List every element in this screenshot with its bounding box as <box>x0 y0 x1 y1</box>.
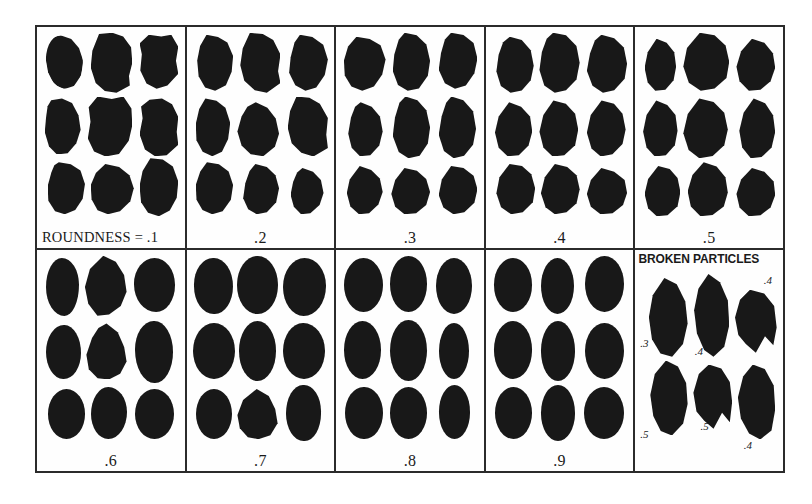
panel-label: .7 <box>187 452 335 470</box>
particle <box>439 33 478 89</box>
particle <box>239 321 276 381</box>
broken-particle-label: .5 <box>640 428 648 440</box>
panel-label: .2 <box>187 229 335 247</box>
particle <box>283 323 325 379</box>
particle <box>197 35 233 91</box>
particle <box>539 100 578 156</box>
particle <box>344 258 383 312</box>
particle <box>140 35 179 89</box>
particle <box>584 387 624 439</box>
particle <box>288 97 328 157</box>
particle <box>345 387 382 439</box>
particle <box>683 98 728 158</box>
particle <box>390 256 427 312</box>
panel-label: .8 <box>336 452 484 470</box>
panel-label: .5 <box>635 229 783 247</box>
particle <box>495 102 532 156</box>
particle <box>283 258 326 316</box>
particle <box>587 35 627 93</box>
particle-grid <box>189 252 333 445</box>
particle-grid <box>39 29 183 222</box>
particle <box>496 37 533 93</box>
particle <box>344 321 381 379</box>
particle <box>289 35 328 91</box>
particle <box>587 100 626 156</box>
panel-roundness-0-3[interactable]: .3 <box>336 27 486 248</box>
broken-particle <box>693 365 732 432</box>
particle <box>135 389 174 439</box>
panel-roundness-0-4[interactable]: .4 <box>486 27 636 248</box>
broken-particles-title: BROKEN PARTICLES <box>638 252 781 266</box>
particle <box>587 168 627 214</box>
particle <box>237 256 277 314</box>
broken-particle-grid: .3 .4 .4 .5 .5 .4 <box>637 270 781 467</box>
particle <box>390 387 427 439</box>
panel-roundness-0-7[interactable]: .7 <box>187 250 337 471</box>
particle <box>46 325 80 379</box>
panel-roundness-0-1[interactable]: ROUNDNESS = .1 <box>37 27 187 248</box>
broken-particle-label: .4 <box>764 274 772 286</box>
particle <box>736 39 775 91</box>
particle <box>286 385 320 441</box>
particle <box>243 164 279 214</box>
particle <box>688 162 728 216</box>
broken-particle <box>650 361 687 436</box>
particle <box>91 164 134 214</box>
panel-label: .3 <box>336 229 484 247</box>
panel-label: ROUNDNESS = .1 <box>37 229 185 246</box>
particle <box>45 98 81 154</box>
particle <box>541 321 575 381</box>
particle <box>291 168 324 214</box>
particle <box>541 258 574 314</box>
particle-grid <box>338 29 482 222</box>
particle <box>48 389 85 439</box>
particle-grid <box>338 252 482 445</box>
particle <box>46 258 79 316</box>
broken-particle-label: .3 <box>640 337 648 349</box>
panel-roundness-0-2[interactable]: .2 <box>187 27 337 248</box>
particle <box>683 33 729 91</box>
particle <box>348 102 382 156</box>
particle <box>736 168 775 216</box>
particle <box>495 387 532 439</box>
particle <box>439 97 476 159</box>
particle <box>585 323 624 379</box>
panel-roundness-0-8[interactable]: .8 <box>336 250 486 471</box>
particle <box>344 37 386 91</box>
broken-particle <box>649 278 688 357</box>
particle <box>85 256 127 316</box>
panel-label: .9 <box>486 452 634 470</box>
particle <box>585 256 624 312</box>
panel-roundness-0-6[interactable]: .6 <box>37 250 187 471</box>
particle <box>347 166 383 214</box>
particle <box>196 389 232 439</box>
particle <box>135 321 172 383</box>
particle <box>196 98 230 156</box>
particle <box>237 389 277 439</box>
particle <box>539 33 579 93</box>
particle-grid <box>39 252 183 445</box>
particle <box>393 97 430 159</box>
particle-grid <box>488 252 632 445</box>
particle <box>496 164 535 214</box>
broken-particle-label: .4 <box>744 439 752 451</box>
particle <box>439 385 471 439</box>
broken-particle-label: .4 <box>695 345 703 357</box>
panel-broken-particles[interactable]: BROKEN PARTICLES .3 .4 .4 .5 .5 <box>635 250 783 471</box>
particle <box>393 33 430 91</box>
particle <box>237 102 279 156</box>
particle <box>240 33 280 93</box>
particle <box>48 162 85 214</box>
panel-label: .6 <box>37 452 185 470</box>
panel-roundness-0-5[interactable]: .5 <box>635 27 783 248</box>
particle <box>88 97 133 157</box>
particle <box>193 323 235 379</box>
particle <box>91 33 133 93</box>
particle <box>494 258 533 312</box>
particle-grid <box>488 29 632 222</box>
particle <box>645 166 681 216</box>
panel-roundness-0-9[interactable]: .9 <box>486 250 636 471</box>
particle <box>196 162 233 214</box>
particle <box>645 39 677 91</box>
particle <box>86 323 126 379</box>
